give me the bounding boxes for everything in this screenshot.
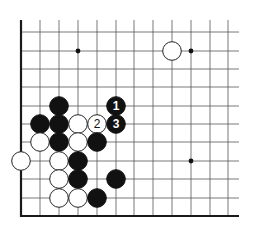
white-stone-circle <box>50 152 69 171</box>
white-stone-circle <box>69 133 88 152</box>
white-stone <box>50 152 69 171</box>
black-stone-circle <box>50 133 69 152</box>
black-stone-circle <box>50 97 69 116</box>
black-stone <box>50 115 69 134</box>
move-number-label: 1 <box>113 99 120 113</box>
white-stone <box>69 133 88 152</box>
black-stone <box>50 97 69 116</box>
black-stone-circle <box>50 115 69 134</box>
black-stone <box>31 115 50 134</box>
black-stone <box>50 133 69 152</box>
black-stone-circle <box>69 152 88 171</box>
black-stone: 1 <box>107 97 126 116</box>
black-stone <box>69 170 88 189</box>
white-stone-circle <box>31 133 50 152</box>
black-stone: 3 <box>107 115 126 134</box>
black-stone <box>88 133 107 152</box>
white-stone-circle <box>163 42 182 61</box>
white-stone-circle <box>50 189 69 208</box>
white-stone <box>163 42 182 61</box>
star-point <box>189 49 194 54</box>
black-stone <box>69 152 88 171</box>
white-stone-circle <box>12 152 31 171</box>
black-stone-circle <box>69 170 88 189</box>
star-point <box>76 49 81 54</box>
white-stone <box>50 170 69 189</box>
white-stone-circle <box>69 115 88 134</box>
go-board: 123 <box>0 0 254 234</box>
move-number-label: 2 <box>94 117 101 131</box>
stones-layer: 123 <box>12 42 182 208</box>
black-stone-circle <box>88 133 107 152</box>
black-stone-circle <box>88 189 107 208</box>
white-stone <box>69 189 88 208</box>
black-stone <box>88 189 107 208</box>
white-stone <box>50 189 69 208</box>
white-stone: 2 <box>88 115 107 134</box>
move-number-label: 3 <box>113 117 120 131</box>
black-stone-circle <box>31 115 50 134</box>
white-stone <box>12 152 31 171</box>
black-stone-circle <box>107 170 126 189</box>
white-stone-circle <box>50 170 69 189</box>
star-point <box>189 159 194 164</box>
white-stone <box>69 115 88 134</box>
white-stone-circle <box>69 189 88 208</box>
black-stone <box>107 170 126 189</box>
white-stone <box>31 133 50 152</box>
